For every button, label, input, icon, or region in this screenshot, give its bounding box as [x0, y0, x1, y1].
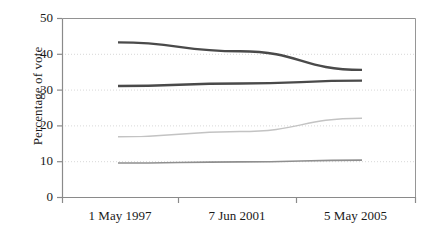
data-line	[118, 81, 362, 86]
tick-marks	[57, 19, 416, 204]
axes	[63, 19, 416, 198]
y-tick-label: 50	[23, 11, 53, 24]
series-lines	[118, 42, 362, 163]
data-line	[118, 42, 362, 70]
x-tick-label: 7 Jun 2001	[177, 209, 297, 222]
x-tick-label: 1 May 1997	[60, 209, 180, 222]
data-line	[118, 160, 362, 163]
y-tick-label: 0	[23, 190, 53, 203]
y-tick-label: 30	[23, 83, 53, 96]
x-tick-label: 5 May 2005	[296, 209, 416, 222]
y-tick-label: 20	[23, 118, 53, 131]
data-line	[118, 118, 362, 137]
y-tick-label: 10	[23, 154, 53, 167]
line-chart: Percentage of vote 01020304050 1 May 199…	[0, 0, 434, 238]
y-tick-label: 40	[23, 47, 53, 60]
gridlines	[62, 19, 415, 162]
chart-canvas	[0, 0, 434, 238]
